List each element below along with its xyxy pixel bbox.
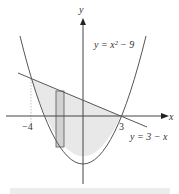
x-axis-label: x: [168, 111, 174, 122]
y-axis-label: y: [78, 4, 84, 15]
bottom-bar: [10, 188, 170, 194]
tick-label-3: 3: [119, 121, 124, 132]
y-axis-arrow-icon: [80, 18, 86, 25]
representative-rectangle: [56, 91, 64, 147]
x-axis-arrow-icon: [161, 113, 169, 119]
region-between-curves-diagram: y x −4 3 y = x² − 9 y = 3 − x: [0, 0, 179, 194]
tick-label-minus-4: −4: [22, 121, 33, 132]
line-equation-label: y = 3 − x: [129, 131, 168, 142]
parabola-equation-label: y = x² − 9: [93, 39, 134, 50]
